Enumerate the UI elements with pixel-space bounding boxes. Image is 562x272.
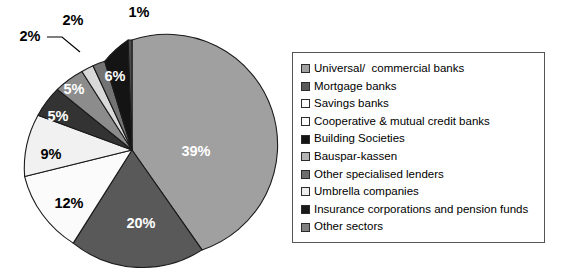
pie-label-39: 39% [181,143,210,159]
legend-swatch-icon [301,82,310,91]
legend-item-bauspar-kassen[interactable]: Bauspar-kassen [301,148,544,166]
legend-swatch-icon [301,64,310,73]
legend-item-umbrella-companies[interactable]: Umbrella companies [301,183,544,201]
pie-label-9: 9% [41,146,62,162]
chart-legend: Universal/ commercial banks Mortgage ban… [292,52,545,243]
leader-line-other-specialised-lenders [47,37,80,52]
pie-label-12: 12% [54,195,83,211]
legend-swatch-icon [301,117,310,126]
pie-label-20: 20% [126,215,155,231]
legend-item-other-sectors[interactable]: Other sectors [301,218,544,236]
pie-label-2-umbrella-companies: 2% [63,12,84,28]
pie-label-1: 1% [129,4,150,20]
pie-chart-svg: 39% 20% 12% 9% 5% 5% 6% 2% 2% 1% [0,0,290,272]
legend-swatch-icon [301,205,310,214]
legend-item-building-societies[interactable]: Building Societies [301,130,544,148]
legend-item-label: Other sectors [314,221,383,233]
legend-swatch-icon [301,223,310,232]
legend-item-label: Savings banks [314,98,389,110]
legend-item-savings-banks[interactable]: Savings banks [301,95,544,113]
legend-swatch-icon [301,170,310,179]
legend-item-label: Building Societies [314,133,405,145]
legend-item-label: Umbrella companies [314,186,419,198]
legend-item-label: Universal/ commercial banks [314,63,464,75]
legend-swatch-icon [301,99,310,108]
legend-item-label: Cooperative & mutual credit banks [314,116,490,128]
legend-item-label: Insurance corporations and pension funds [314,204,528,216]
legend-swatch-icon [301,152,310,161]
pie-label-5-building-societies: 5% [48,108,69,124]
pie-label-6: 6% [105,68,126,84]
legend-item-other-specialised-lenders[interactable]: Other specialised lenders [301,166,544,184]
legend-item-universal-commercial-banks[interactable]: Universal/ commercial banks [301,60,544,78]
pie-label-2-other-specialised-lenders: 2% [20,28,41,44]
legend-item-cooperative-mutual-credit-banks[interactable]: Cooperative & mutual credit banks [301,113,544,131]
legend-swatch-icon [301,187,310,196]
legend-item-insurance-corporations-pension-funds[interactable]: Insurance corporations and pension funds [301,201,544,219]
legend-swatch-icon [301,135,310,144]
pie-label-5-bauspar-kassen: 5% [64,81,85,97]
legend-item-mortgage-banks[interactable]: Mortgage banks [301,78,544,96]
pie-chart-figure: 39% 20% 12% 9% 5% 5% 6% 2% 2% 1% Univers… [0,0,562,272]
legend-item-label: Mortgage banks [314,81,396,93]
legend-item-label: Bauspar-kassen [314,151,397,163]
legend-item-label: Other specialised lenders [314,169,444,181]
pie-chart-area: 39% 20% 12% 9% 5% 5% 6% 2% 2% 1% [0,0,290,272]
